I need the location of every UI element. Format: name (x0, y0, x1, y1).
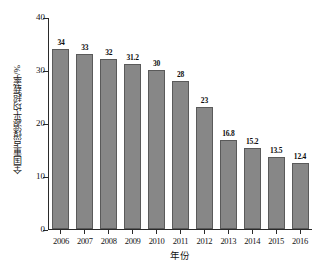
x-tick-label-2009: 2009 (121, 236, 145, 246)
bar-value-label: 28 (177, 70, 184, 79)
x-tick-slot (121, 230, 145, 234)
y-tick-label: 30 (36, 65, 45, 75)
x-axis-ticks (49, 230, 312, 234)
x-tick-label-2016: 2016 (288, 236, 312, 246)
bar-slot: 16.8 (216, 18, 240, 229)
bar-slot: 31.2 (121, 18, 145, 229)
x-axis-tick-labels: 2006200720082009201020112012201320142015… (49, 236, 312, 246)
x-tick-label-2012: 2012 (192, 236, 216, 246)
bar-slot: 33 (73, 18, 97, 229)
bar-2012 (196, 107, 213, 229)
y-tick-label: 10 (36, 171, 45, 181)
x-tick-slot (288, 230, 312, 234)
x-tick-label-2015: 2015 (264, 236, 288, 246)
x-tick-slot (145, 230, 169, 234)
y-tick-label: 0 (41, 224, 46, 234)
y-tick-label: 20 (36, 118, 45, 128)
y-tick-label: 40 (36, 12, 45, 22)
x-tick-slot (169, 230, 193, 234)
bar-slot: 28 (169, 18, 193, 229)
x-tick-slot (97, 230, 121, 234)
bar-value-label: 33 (81, 43, 88, 52)
bar-value-label: 12.4 (294, 152, 306, 161)
bar-slot: 12.4 (288, 18, 312, 229)
x-tick-mark (300, 230, 301, 234)
x-tick-mark (276, 230, 277, 234)
x-tick-label-2011: 2011 (169, 236, 193, 246)
bar-2007 (76, 54, 93, 229)
bar-chart: 全国重点煤源平均超载率/% 010203040 34333231.2302823… (0, 0, 322, 279)
bar-slot: 23 (192, 18, 216, 229)
bar-value-label: 31.2 (127, 53, 139, 62)
bar-2010 (148, 70, 165, 229)
bar-slot: 15.2 (240, 18, 264, 229)
x-tick-slot (49, 230, 73, 234)
x-tick-mark (84, 230, 85, 234)
bar-value-label: 15.2 (246, 137, 258, 146)
bar-value-label: 30 (153, 59, 160, 68)
x-tick-label-2008: 2008 (97, 236, 121, 246)
x-tick-slot (240, 230, 264, 234)
bar-2009 (124, 64, 141, 229)
x-tick-slot (264, 230, 288, 234)
y-axis-title: 全国重点煤源平均超载率/% (10, 0, 24, 240)
bar-value-label: 32 (105, 48, 112, 57)
x-tick-mark (60, 230, 61, 234)
x-axis-title: 年份 (48, 248, 312, 262)
bar-slot: 30 (145, 18, 169, 229)
x-tick-label-2007: 2007 (73, 236, 97, 246)
bar-slot: 13.5 (264, 18, 288, 229)
plot-area: 010203040 34333231.230282316.815.213.512… (48, 18, 312, 230)
x-tick-mark (108, 230, 109, 234)
x-tick-label-2006: 2006 (49, 236, 73, 246)
x-tick-slot (216, 230, 240, 234)
bar-2016 (292, 163, 309, 229)
x-tick-mark (228, 230, 229, 234)
x-tick-mark (156, 230, 157, 234)
bar-2015 (268, 157, 285, 229)
bar-slot: 32 (97, 18, 121, 229)
x-tick-label-2010: 2010 (145, 236, 169, 246)
bar-2014 (244, 148, 261, 229)
x-tick-mark (132, 230, 133, 234)
bar-value-label: 16.8 (222, 129, 234, 138)
bars-layer: 34333231.230282316.815.213.512.4 (49, 18, 312, 229)
x-tick-mark (180, 230, 181, 234)
x-tick-label-2013: 2013 (216, 236, 240, 246)
x-tick-slot (192, 230, 216, 234)
bar-value-label: 23 (201, 96, 208, 105)
bar-2011 (172, 81, 189, 229)
bar-2008 (100, 59, 117, 229)
bar-2013 (220, 140, 237, 229)
bar-value-label: 34 (57, 38, 64, 47)
bar-value-label: 13.5 (270, 146, 282, 155)
bar-slot: 34 (49, 18, 73, 229)
x-tick-slot (73, 230, 97, 234)
x-tick-mark (204, 230, 205, 234)
x-tick-mark (252, 230, 253, 234)
x-tick-label-2014: 2014 (240, 236, 264, 246)
bar-2006 (52, 49, 69, 229)
